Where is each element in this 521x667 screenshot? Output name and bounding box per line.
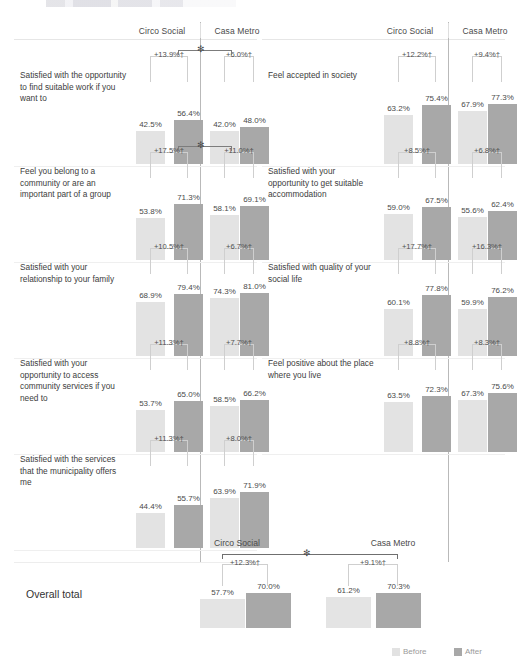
row-plot-area: 63.5%72.3%67.3%75.6%: [262, 332, 505, 452]
circo-bracket: [150, 440, 188, 466]
bar-circo-before-value: 42.5%: [130, 120, 171, 129]
header-divider: [200, 23, 201, 38]
column-header-casa-metro: Casa Metro: [450, 22, 520, 39]
legend-label-after: After: [465, 647, 482, 656]
column-header-circo-social: Circo Social: [124, 22, 200, 39]
total-bar-casa-after: [376, 593, 421, 628]
circo-delta: +8.5%†: [390, 146, 444, 155]
chart-row: Satisfied with the opportunity to find s…: [14, 44, 257, 140]
total-header-casa: Casa Metro: [338, 536, 448, 550]
chart-row: Feel you belong to a community or are an…: [14, 140, 257, 236]
bar-circo-before-value: 60.1%: [378, 298, 419, 307]
bar-circo-after-value: 77.8%: [416, 284, 457, 293]
bar-casa-before: [458, 400, 487, 452]
circo-bracket: [398, 248, 436, 274]
total-circo-delta: +12.3%†: [212, 558, 278, 567]
right-chart-panel: Circo SocialCasa MetroFeel accepted in s…: [262, 22, 505, 562]
bar-casa-after-value: 62.4%: [482, 200, 521, 209]
bar-circo-after-value: 71.3%: [168, 193, 209, 202]
total-casa-bracket: [348, 564, 398, 586]
group-significance-bracket: [178, 50, 232, 55]
column-header-circo-social: Circo Social: [372, 22, 448, 39]
total-casa-delta: +9.1%†: [338, 558, 408, 567]
legend: Before After: [392, 646, 508, 658]
bar-circo-before: [384, 402, 413, 452]
cropped-title-artifact: [46, 0, 236, 7]
bar-circo-after-value: 75.4%: [416, 94, 457, 103]
bar-casa-after-value: 75.6%: [482, 382, 521, 391]
casa-bracket: [224, 344, 254, 370]
casa-delta: +8.3%†: [464, 338, 510, 347]
header-divider: [448, 23, 449, 38]
chart-row: Satisfied with your relationship to your…: [14, 236, 257, 332]
casa-bracket: [224, 248, 254, 274]
casa-delta: +6.8%†: [464, 146, 510, 155]
left-chart-panel: Circo SocialCasa MetroSatisfied with the…: [14, 22, 257, 562]
circo-delta: +10.5%†: [142, 242, 196, 251]
casa-delta: +8.0%†: [216, 434, 262, 443]
chart-row: Feel accepted in society63.2%75.4%67.9%7…: [262, 44, 505, 140]
header-rule: [262, 39, 505, 40]
circo-delta: +11.3%†: [142, 338, 196, 347]
bar-circo-before-value: 63.5%: [378, 391, 419, 400]
circo-bracket: [150, 344, 188, 370]
circo-bracket: [398, 344, 436, 370]
legend-label-before: Before: [403, 647, 427, 656]
casa-delta: +6.7%†: [216, 242, 262, 251]
casa-delta: +16.3%†: [464, 242, 510, 251]
bar-circo-after-value: 65.0%: [168, 390, 209, 399]
bar-circo-before-value: 63.2%: [378, 104, 419, 113]
chart-row: Satisfied with the services that the mun…: [14, 428, 257, 524]
circo-bracket: [150, 152, 188, 178]
bar-circo-after-value: 72.3%: [416, 385, 457, 394]
row-baseline: [262, 454, 505, 455]
group-significance-bracket: [178, 146, 232, 151]
bar-circo-before-value: 68.9%: [130, 291, 171, 300]
bar-casa-after-value: 77.3%: [482, 93, 521, 102]
row-plot-area: 44.4%55.7%63.9%71.9%: [14, 428, 257, 548]
casa-bracket: [472, 56, 502, 82]
bar-casa-before-value: 58.1%: [204, 204, 245, 213]
total-group-significance-marker: ✻: [303, 550, 311, 556]
chart-row: Satisfied with your opportunity to acces…: [14, 332, 257, 428]
casa-bracket: [472, 344, 502, 370]
bar-casa-before-value: 59.9%: [452, 298, 493, 307]
circo-delta: +8.8%†: [390, 338, 444, 347]
group-significance-marker: ✻: [197, 46, 205, 52]
bar-circo-after-value: 56.4%: [168, 109, 209, 118]
casa-bracket: [224, 56, 254, 82]
bar-circo-after: [422, 396, 451, 452]
overall-total-block: Circo Social Casa Metro Overall total 57…: [0, 536, 512, 646]
circo-bracket: [150, 248, 188, 274]
bar-casa-after: [488, 393, 517, 452]
bar-circo-before-value: 53.7%: [130, 399, 171, 408]
casa-bracket: [472, 152, 502, 178]
header-rule: [14, 39, 257, 40]
bar-circo-after-value: 55.7%: [168, 494, 209, 503]
circo-bracket: [150, 56, 188, 82]
total-bar-casa-before: [326, 597, 371, 628]
circo-delta: +11.3%†: [142, 434, 196, 443]
total-bar-circo-before: [200, 599, 245, 628]
bar-circo-before-value: 44.4%: [130, 502, 171, 511]
circo-delta: +12.2%†: [390, 50, 444, 59]
bar-casa-after-value: 76.2%: [482, 286, 521, 295]
casa-bracket: [472, 248, 502, 274]
legend-swatch-after: [454, 648, 462, 656]
chart-row: Satisfied with your opportunity to get s…: [262, 140, 505, 236]
total-header-circo: Circo Social: [182, 536, 292, 550]
casa-delta: +9.4%†: [464, 50, 510, 59]
total-bar-circo-after: [246, 593, 291, 628]
casa-bracket: [224, 152, 254, 178]
legend-swatch-before: [392, 648, 400, 656]
casa-delta: +7.7%†: [216, 338, 262, 347]
bar-circo-before-value: 59.0%: [378, 203, 419, 212]
circo-bracket: [398, 152, 436, 178]
bar-circo-before-value: 53.8%: [130, 207, 171, 216]
total-circo-bracket: [222, 564, 268, 586]
casa-bracket: [224, 440, 254, 466]
circo-bracket: [398, 56, 436, 82]
bar-circo-after-value: 79.4%: [168, 283, 209, 292]
chart-row: Satisfied with quality of your social li…: [262, 236, 505, 332]
